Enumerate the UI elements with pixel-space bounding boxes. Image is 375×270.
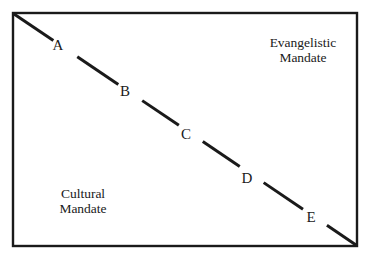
evangelistic-mandate-line2: Mandate (248, 50, 358, 65)
continuum-node-a: A (53, 37, 64, 53)
diagram-canvas: ABCDE Evangelistic Mandate Cultural Mand… (0, 0, 375, 270)
cultural-mandate-label: Cultural Mandate (28, 186, 138, 217)
evangelistic-mandate-line1: Evangelistic (248, 35, 358, 50)
cultural-mandate-line1: Cultural (28, 186, 138, 201)
continuum-node-b: B (120, 83, 130, 99)
cultural-mandate-line2: Mandate (28, 201, 138, 216)
continuum-node-d: D (242, 170, 253, 186)
continuum-node-e: E (306, 209, 315, 225)
evangelistic-mandate-label: Evangelistic Mandate (248, 35, 358, 66)
continuum-node-c: C (181, 126, 191, 142)
